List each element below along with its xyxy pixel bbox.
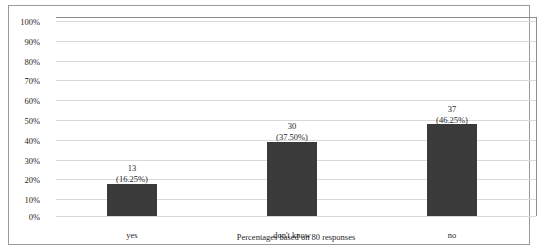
gridline-0 <box>56 216 536 217</box>
bar-count-no: 37 <box>397 104 507 115</box>
bar-value-label-dont-know: 30 (37.50%) <box>237 121 347 142</box>
bar-yes[interactable] <box>107 184 157 216</box>
gridline-100 <box>56 21 536 22</box>
y-axis-tick-20: 20% <box>0 176 40 185</box>
bar-no[interactable] <box>427 124 477 216</box>
y-axis-tick-70: 70% <box>0 77 40 86</box>
bar-value-label-yes: 13 (16.25%) <box>77 163 187 184</box>
bar-percent-no: (46.25%) <box>397 115 507 126</box>
bar-dont-know[interactable] <box>267 142 317 216</box>
y-axis-tick-0: 0% <box>0 213 40 222</box>
x-axis-caption: Percentages based on 80 responses <box>56 233 536 242</box>
bar-count-dont-know: 30 <box>237 121 347 132</box>
gridline-60 <box>56 100 536 101</box>
y-axis-tick-50: 50% <box>0 117 40 126</box>
gridline-90 <box>56 41 536 42</box>
gridline-70 <box>56 80 536 81</box>
gridline-80 <box>56 61 536 62</box>
chart-frame: 100% 90% 80% 70% 60% 50% 40% 30% 20% 10%… <box>8 5 530 245</box>
y-axis-tick-10: 10% <box>0 196 40 205</box>
y-axis-tick-40: 40% <box>0 137 40 146</box>
bar-percent-dont-know: (37.50%) <box>237 132 347 143</box>
bar-percent-yes: (16.25%) <box>77 174 187 185</box>
y-axis-tick-60: 60% <box>0 97 40 106</box>
bar-value-label-no: 37 (46.25%) <box>397 104 507 125</box>
y-axis-tick-30: 30% <box>0 157 40 166</box>
y-axis-tick-80: 80% <box>0 58 40 67</box>
bar-count-yes: 13 <box>77 163 187 174</box>
y-axis-tick-90: 90% <box>0 38 40 47</box>
plot-area: 100% 90% 80% 70% 60% 50% 40% 30% 20% 10%… <box>56 17 537 216</box>
y-axis-tick-100: 100% <box>0 18 40 27</box>
